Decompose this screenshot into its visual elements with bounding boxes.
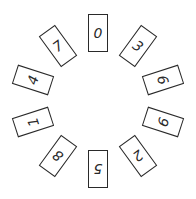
card: 0	[88, 14, 108, 52]
card-digit: 9	[155, 116, 171, 129]
card-digit: 2	[130, 148, 145, 165]
card-digit: 8	[50, 148, 65, 165]
card-digit: 0	[94, 26, 103, 40]
card: 4	[12, 65, 54, 96]
card-digit: 4	[25, 74, 41, 87]
card: 3	[119, 25, 158, 67]
card-digit: 5	[94, 162, 103, 176]
card-digit: 1	[25, 116, 41, 129]
card: 7	[39, 25, 78, 67]
card: 5	[88, 150, 108, 188]
card: 1	[12, 107, 54, 138]
card-digit: 7	[50, 38, 65, 55]
card: 2	[119, 135, 158, 177]
card: 6	[141, 65, 183, 96]
card-digit: 3	[130, 38, 145, 55]
card: 9	[141, 107, 183, 138]
card-ring: 0 3 6 9 2 5 8 1 4 7	[0, 0, 196, 199]
card-digit: 6	[155, 74, 171, 87]
card: 8	[39, 135, 78, 177]
